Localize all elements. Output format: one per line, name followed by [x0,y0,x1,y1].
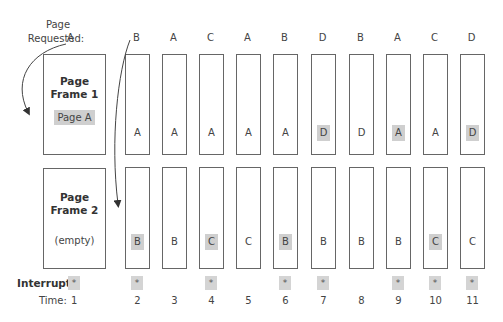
arrow-a-to-frame1 [22,44,66,112]
arrows [0,0,503,322]
arrow-b-to-frame2 [115,40,130,204]
